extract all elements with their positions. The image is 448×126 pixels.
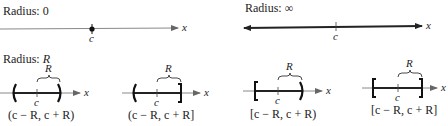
interval-notation: [c − R, c + R]	[371, 103, 437, 117]
interval-panel-open-closed: c R x (c − R, c + R]	[122, 62, 209, 122]
center-label: c	[333, 30, 338, 42]
center-label: c	[89, 32, 94, 44]
radius-r-title: Radius: R	[3, 52, 51, 66]
number-line	[0, 28, 178, 29]
axis-label: x	[181, 21, 187, 33]
svg-text:c: c	[34, 96, 39, 108]
svg-text:x: x	[83, 86, 89, 98]
svg-text:c: c	[275, 94, 280, 106]
svg-text:R: R	[44, 62, 52, 74]
svg-text:x: x	[203, 86, 209, 98]
svg-text:R: R	[285, 60, 293, 72]
svg-text:c: c	[154, 96, 159, 108]
svg-text:R: R	[405, 57, 413, 69]
radius-zero-diagram: Radius: 0 c x	[0, 4, 187, 44]
svg-text:x: x	[440, 81, 446, 93]
interval-panel-open-open: c R x (c − R, c + R)	[0, 62, 89, 122]
interval-panel-closed-closed: c R x [c − R, c + R]	[362, 57, 446, 117]
svg-text:x: x	[325, 84, 331, 96]
radius-infinity-title: Radius: ∞	[245, 1, 293, 15]
radius-brace	[157, 75, 181, 82]
axis-label: x	[425, 19, 431, 31]
interval-notation: (c − R, c + R)	[8, 108, 74, 122]
number-line	[244, 26, 422, 28]
interval-notation: (c − R, c + R]	[128, 108, 194, 122]
radius-brace	[398, 70, 422, 77]
radius-brace	[37, 75, 60, 82]
radius-brace	[278, 73, 302, 80]
interval-of-convergence-diagram: Radius: 0 c x Radius: ∞ c x Radius: R c …	[0, 0, 448, 126]
radius-zero-title: Radius: 0	[3, 4, 49, 18]
radius-infinity-diagram: Radius: ∞ c x	[244, 1, 431, 42]
svg-text:R: R	[164, 62, 172, 74]
svg-text:c: c	[395, 91, 400, 103]
interval-notation: [c − R, c + R)	[250, 107, 316, 121]
interval-panel-closed-open: c R x [c − R, c + R)	[243, 60, 331, 121]
